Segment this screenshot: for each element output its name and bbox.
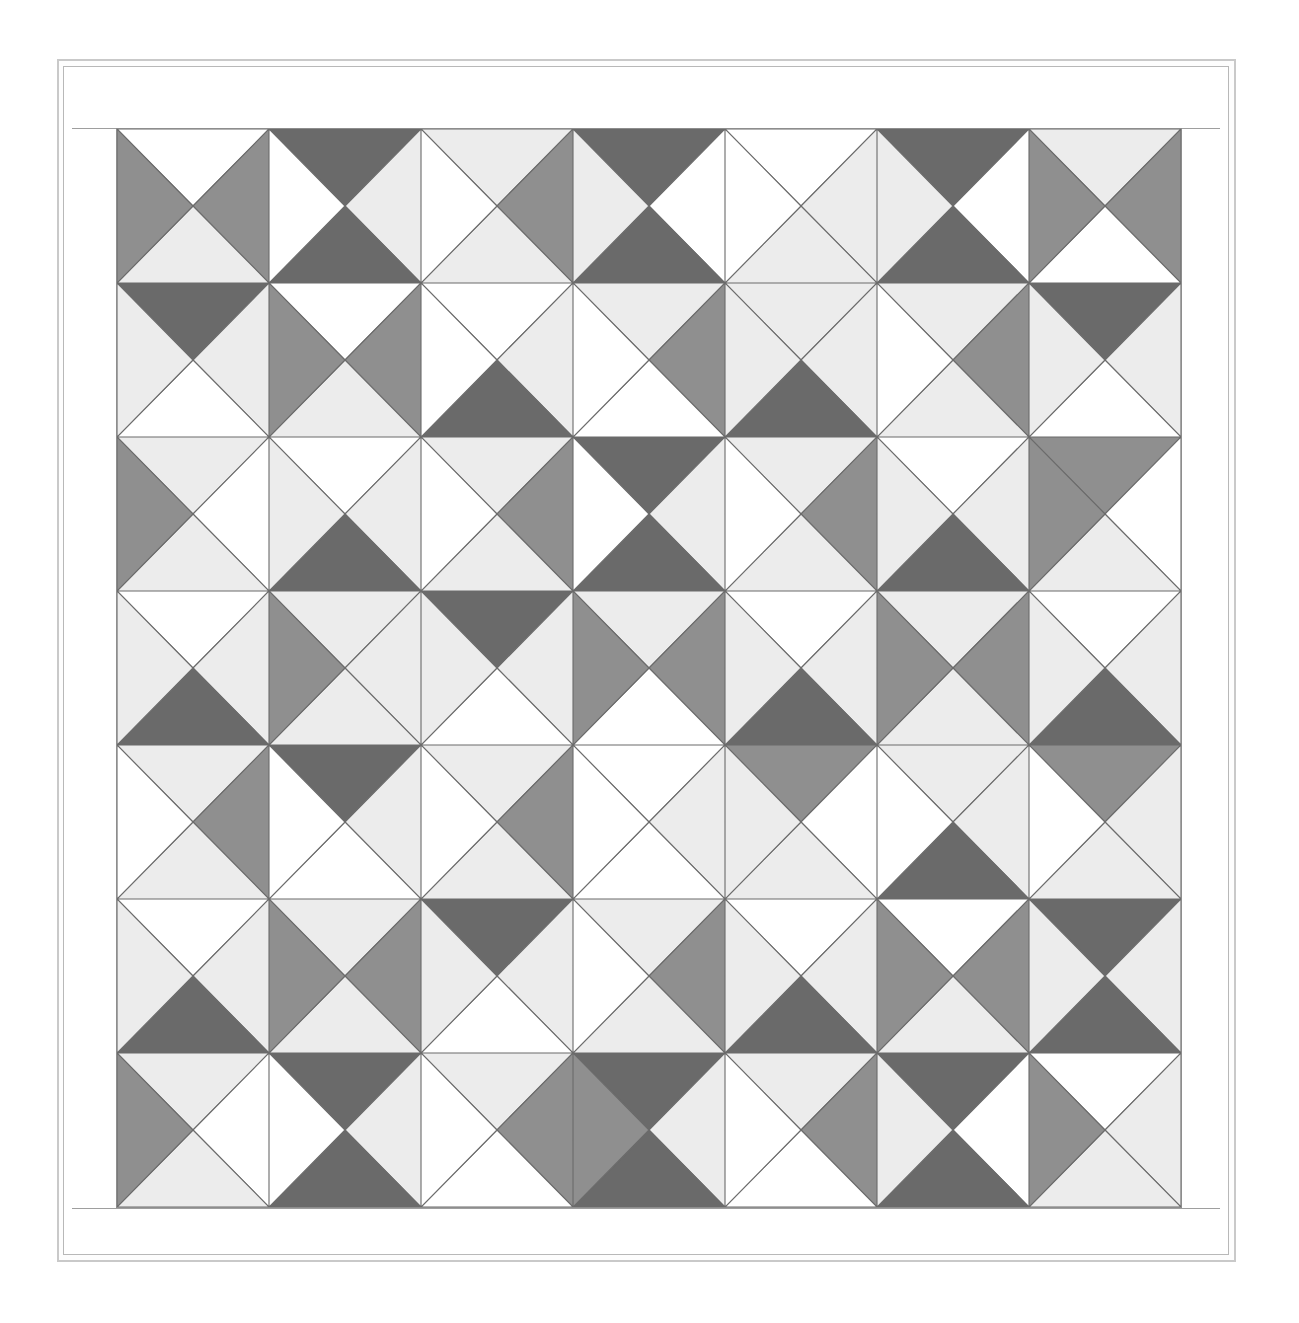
quilt-block-r5-c5 bbox=[725, 745, 877, 899]
quilt-block-r7-c2 bbox=[269, 1053, 421, 1207]
quilt-block-r5-c3 bbox=[421, 745, 573, 899]
quilt-block-r2-c5 bbox=[725, 283, 877, 437]
quilt-block-r4-c5 bbox=[725, 591, 877, 745]
quilt-block-r6-c3 bbox=[421, 899, 573, 1053]
quilt-block-r5-c6 bbox=[877, 745, 1029, 899]
quilt-block-r1-c4 bbox=[573, 129, 725, 283]
quilt-block-r4-c6 bbox=[877, 591, 1029, 745]
quilt-block-r7-c6 bbox=[877, 1053, 1029, 1207]
quilt-block-r6-c6 bbox=[877, 899, 1029, 1053]
quilt-block-r1-c5 bbox=[725, 129, 877, 283]
quilt-block-r2-c2 bbox=[269, 283, 421, 437]
quilt-block-r7-c4 bbox=[573, 1053, 725, 1207]
quilt-block-r7-c3 bbox=[421, 1053, 573, 1207]
quilt-block-r1-c6 bbox=[877, 129, 1029, 283]
quilt-block-r2-c3 bbox=[421, 283, 573, 437]
quilt-block-r1-c1 bbox=[117, 129, 269, 283]
quilt-block-r7-c5 bbox=[725, 1053, 877, 1207]
quilt-block-r2-c6 bbox=[877, 283, 1029, 437]
quilt-block-r1-c3 bbox=[421, 129, 573, 283]
quilt-block-r6-c5 bbox=[725, 899, 877, 1053]
quilt-block-r6-c4 bbox=[573, 899, 725, 1053]
quilt-block-r3-c4 bbox=[573, 437, 725, 591]
quilt-block-r4-c1 bbox=[117, 591, 269, 745]
quilt-block-r5-c7 bbox=[1029, 745, 1181, 899]
quilt-block-r2-c7 bbox=[1029, 283, 1181, 437]
quilt-block-r5-c1 bbox=[117, 745, 269, 899]
quilt-block-r5-c2 bbox=[269, 745, 421, 899]
quilt-block-r1-c2 bbox=[269, 129, 421, 283]
quilt-block-r6-c2 bbox=[269, 899, 421, 1053]
quilt-block-r5-c4 bbox=[573, 745, 725, 899]
quilt-block-r3-c3 bbox=[421, 437, 573, 591]
quilt-block-r7-c1 bbox=[117, 1053, 269, 1207]
artwork-canvas bbox=[0, 0, 1299, 1323]
quilt-block-r3-c2 bbox=[269, 437, 421, 591]
quilt-block-r1-c7 bbox=[1029, 129, 1181, 283]
quilt-block-r4-c4 bbox=[573, 591, 725, 745]
quilt-block-r7-c7 bbox=[1029, 1053, 1181, 1207]
sashing-bottom bbox=[72, 1208, 1220, 1209]
quilt-block-r6-c1 bbox=[117, 899, 269, 1053]
quilt-block-r4-c3 bbox=[421, 591, 573, 745]
sashing-right bbox=[1181, 128, 1182, 1209]
quilt-block-r2-c1 bbox=[117, 283, 269, 437]
quilt-block-r4-c7 bbox=[1029, 591, 1181, 745]
quilt-block-r3-c1 bbox=[117, 437, 269, 591]
quilt-block-r2-c4 bbox=[573, 283, 725, 437]
quilt-block-r3-c7 bbox=[1029, 437, 1181, 591]
quilt-block-r4-c2 bbox=[269, 591, 421, 745]
quilt-block-r3-c5 bbox=[725, 437, 877, 591]
quilt-block-r3-c6 bbox=[877, 437, 1029, 591]
quilt-grid bbox=[117, 129, 1181, 1207]
quilt-block-r6-c7 bbox=[1029, 899, 1181, 1053]
